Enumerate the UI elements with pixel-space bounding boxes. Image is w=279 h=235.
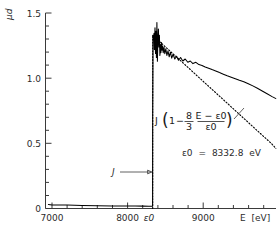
fit-eq-J: J xyxy=(154,115,158,126)
fit-equation-annotation: J ( 1 − 8 3 E − ε0 ε0 ) xyxy=(154,108,244,132)
fit-eq-numerator-8: 8 xyxy=(186,110,192,121)
e0-value-equals: = xyxy=(198,148,206,158)
ytick-label-1-0: 1.0 xyxy=(27,74,42,84)
fit-eq-denominator-3: 3 xyxy=(186,121,192,132)
ytick-label-0-5: 0.5 xyxy=(27,139,41,149)
svg-text:ε0: ε0 xyxy=(144,213,155,223)
fit-eq-one: 1 xyxy=(169,115,175,126)
fit-eq-close-paren: ) xyxy=(226,110,233,130)
fit-eq-numerator-E-minus-e0: E − ε0 xyxy=(195,110,226,121)
absorption-edge-chart: 1.5 1.0 0.5 0 μd 7000 8000 9000 ε0 E [eV… xyxy=(0,0,279,235)
edge-jump-annotation: J xyxy=(110,167,152,177)
xtick-label-7000: 7000 xyxy=(41,213,64,223)
x-axis-title-group: E [eV] xyxy=(240,213,270,223)
xtick-label-epsilon0: ε0 xyxy=(144,213,155,223)
edge-jump-label: J xyxy=(110,167,115,177)
e0-value-symbol: ε0 xyxy=(182,148,193,158)
x-axis-title: E xyxy=(240,213,246,223)
fit-eq-denominator-e0: ε0 xyxy=(205,121,216,132)
xtick-label-9000: 9000 xyxy=(192,213,215,223)
fit-eq-minus: − xyxy=(176,115,184,126)
x-axis-unit: [eV] xyxy=(252,213,271,223)
e0-value-text: ε0 = 8332.8 eV xyxy=(182,148,262,158)
epsilon0-tick-symbol: ε0 xyxy=(144,213,155,223)
e0-value-number: 8332.8 xyxy=(212,148,244,158)
fit-eq-open-paren: ( xyxy=(162,110,169,130)
e0-value-unit: eV xyxy=(249,148,262,158)
ytick-label-1-5: 1.5 xyxy=(27,9,41,19)
xtick-label-8000: 8000 xyxy=(116,213,139,223)
y-axis xyxy=(46,13,52,209)
y-axis-title: μd xyxy=(4,8,14,21)
